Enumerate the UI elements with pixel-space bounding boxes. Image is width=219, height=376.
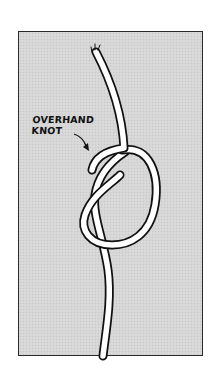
rope	[84, 44, 157, 356]
label-line-1: OVERHAND	[32, 114, 94, 125]
knot-label: OVERHAND KNOT	[31, 114, 94, 136]
label-line-2: KNOT	[31, 125, 93, 136]
arrow-icon	[74, 134, 89, 151]
rope-knot-drawing	[0, 0, 219, 376]
